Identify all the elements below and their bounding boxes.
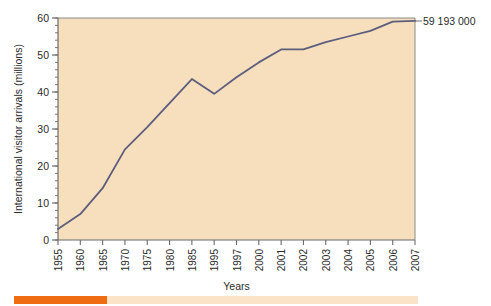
x-axis-tick-label: 1995 bbox=[209, 249, 220, 272]
plot-area-background bbox=[58, 18, 415, 240]
x-axis-tick-label: 1975 bbox=[142, 249, 153, 272]
y-axis-tick-label: 0 bbox=[43, 234, 49, 246]
x-axis-tick-label: 2007 bbox=[410, 249, 421, 272]
x-axis-tick-label: 2000 bbox=[254, 249, 265, 272]
x-axis-tick-label: 1997 bbox=[232, 249, 243, 272]
x-axis-tick-label: 1955 bbox=[53, 249, 64, 272]
x-axis-tick-label: 2003 bbox=[321, 249, 332, 272]
line-chart: 0102030405060International visitor arriv… bbox=[0, 0, 491, 306]
x-axis-tick-label: 1980 bbox=[165, 249, 176, 272]
progress-bar-fill bbox=[14, 296, 107, 304]
x-axis-title: Years bbox=[223, 280, 249, 292]
x-axis-tick-label: 2006 bbox=[388, 249, 399, 272]
y-axis-tick-label: 10 bbox=[37, 197, 49, 209]
x-axis-tick-label: 2005 bbox=[365, 249, 376, 272]
y-axis-tick-label: 50 bbox=[37, 49, 49, 61]
x-axis-tick-label: 1970 bbox=[120, 249, 131, 272]
x-axis-tick-label: 1965 bbox=[98, 249, 109, 272]
y-axis-tick-label: 60 bbox=[37, 12, 49, 24]
chart-figure: 0102030405060International visitor arriv… bbox=[0, 0, 491, 306]
x-axis-tick-label: 2001 bbox=[276, 249, 287, 272]
y-axis-title: International visitor arrivals (millions… bbox=[12, 44, 24, 214]
y-axis-tick-label: 40 bbox=[37, 86, 49, 98]
y-axis-tick-label: 30 bbox=[37, 123, 49, 135]
x-axis-tick-label: 2002 bbox=[298, 249, 309, 272]
progress-bar-track[interactable] bbox=[14, 296, 418, 304]
x-axis-tick-label: 2004 bbox=[343, 249, 354, 272]
y-axis-tick-label: 20 bbox=[37, 160, 49, 172]
x-axis-tick-label: 1985 bbox=[187, 249, 198, 272]
annotation-final-value: 59 193 000 bbox=[423, 15, 476, 27]
x-axis-tick-label: 1960 bbox=[75, 249, 86, 272]
